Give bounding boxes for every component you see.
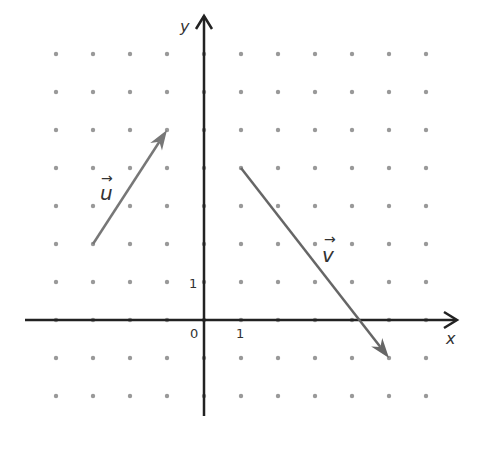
grid-dot — [128, 356, 132, 360]
grid-dot — [313, 280, 317, 284]
grid-dot — [54, 204, 58, 208]
grid-dot — [424, 204, 428, 208]
grid-dot — [128, 242, 132, 246]
grid-dot — [91, 356, 95, 360]
grid-dot — [276, 90, 280, 94]
grid-dot — [128, 280, 132, 284]
grid-dot — [313, 394, 317, 398]
origin-label: 0 — [190, 326, 198, 341]
grid-dot — [239, 204, 243, 208]
grid-dot — [387, 52, 391, 56]
grid-dot — [387, 242, 391, 246]
grid-dot — [91, 128, 95, 132]
grid-dot — [128, 128, 132, 132]
grid-dot — [165, 242, 169, 246]
grid-dot — [350, 204, 354, 208]
grid-dot — [387, 204, 391, 208]
grid-dot — [239, 394, 243, 398]
x-axis-label: x — [445, 329, 456, 348]
vector-u-label: u — [100, 181, 113, 205]
grid-dot — [424, 356, 428, 360]
grid-dot — [313, 166, 317, 170]
grid-dot — [54, 52, 58, 56]
grid-dot — [91, 52, 95, 56]
y-unit-label: 1 — [189, 276, 197, 291]
grid-dot — [424, 52, 428, 56]
grid-dot — [165, 90, 169, 94]
grid-dot — [276, 394, 280, 398]
grid-dot — [54, 90, 58, 94]
grid-dot — [313, 204, 317, 208]
grid-dot — [128, 166, 132, 170]
grid-dot — [128, 204, 132, 208]
grid-dot — [350, 128, 354, 132]
grid-dot — [54, 356, 58, 360]
grid-dot — [239, 90, 243, 94]
grid-dot — [54, 242, 58, 246]
grid-dot — [350, 280, 354, 284]
grid-dot — [91, 90, 95, 94]
grid-dot — [350, 356, 354, 360]
grid-dot — [424, 394, 428, 398]
vector-v: → v — [241, 168, 389, 358]
grid-dot — [128, 90, 132, 94]
grid-dot — [350, 394, 354, 398]
grid-dot — [276, 242, 280, 246]
vector-v-label: v — [322, 243, 335, 267]
grid-dot — [350, 90, 354, 94]
grid-dot — [276, 128, 280, 132]
grid-dot — [313, 90, 317, 94]
grid-dot — [165, 204, 169, 208]
grid-dot — [54, 128, 58, 132]
vector-u-arrowhead-icon — [150, 130, 167, 151]
grid-dot — [276, 280, 280, 284]
grid-dot — [424, 128, 428, 132]
grid-dot — [239, 242, 243, 246]
vector-u: → u — [93, 130, 167, 244]
grid-dot — [350, 166, 354, 170]
grid-dot — [424, 166, 428, 170]
grid-dot — [276, 204, 280, 208]
grid-dot — [350, 242, 354, 246]
grid-dot — [313, 356, 317, 360]
grid-dot — [276, 356, 280, 360]
grid-dot — [54, 166, 58, 170]
grid-dot — [313, 52, 317, 56]
grid-dot — [387, 90, 391, 94]
grid-dot — [387, 128, 391, 132]
grid-dot — [165, 280, 169, 284]
grid-dot — [424, 280, 428, 284]
grid-dot — [387, 394, 391, 398]
grid-dot — [313, 128, 317, 132]
x-unit-label: 1 — [236, 326, 244, 341]
vector-diagram: x y 0 1 1 → u → v — [0, 0, 487, 456]
grid-dot — [424, 242, 428, 246]
grid-dot — [165, 394, 169, 398]
grid-dot — [54, 280, 58, 284]
grid-dot — [91, 166, 95, 170]
grid-dot — [165, 52, 169, 56]
grid-dot — [91, 204, 95, 208]
grid-dot — [54, 394, 58, 398]
grid-dot — [350, 52, 354, 56]
grid-dot — [424, 90, 428, 94]
grid-dot — [91, 394, 95, 398]
grid-dot — [239, 52, 243, 56]
grid-dot — [165, 356, 169, 360]
grid-dot — [91, 280, 95, 284]
grid-dot — [239, 128, 243, 132]
grid-dot — [387, 166, 391, 170]
grid-dot — [239, 280, 243, 284]
grid-dot — [128, 52, 132, 56]
grid-dot — [128, 394, 132, 398]
vector-v-arrowhead-icon — [371, 338, 389, 358]
grid-dot — [387, 280, 391, 284]
grid-dot — [165, 166, 169, 170]
y-axis-label: y — [179, 17, 190, 36]
grid-dot — [239, 356, 243, 360]
grid-dot — [313, 242, 317, 246]
grid-dots — [54, 52, 428, 398]
grid-dot — [276, 166, 280, 170]
grid-dot — [276, 52, 280, 56]
